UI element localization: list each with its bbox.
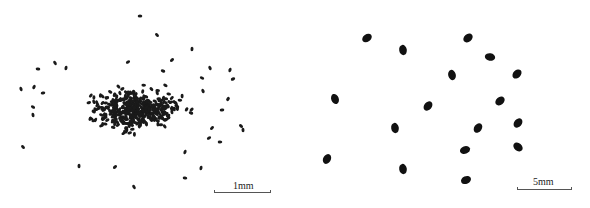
seed bbox=[494, 95, 507, 108]
seed bbox=[199, 165, 203, 170]
seed bbox=[20, 144, 25, 149]
seed bbox=[188, 111, 193, 115]
seed-cluster-image bbox=[0, 0, 295, 208]
seed bbox=[398, 163, 407, 175]
seed bbox=[116, 84, 121, 89]
seed bbox=[86, 101, 91, 105]
seed bbox=[398, 44, 407, 56]
seed bbox=[118, 90, 122, 95]
seed-panel-left: 1mm bbox=[0, 0, 295, 208]
seed bbox=[19, 86, 23, 91]
seed bbox=[422, 100, 435, 113]
scale-bar-5mm bbox=[517, 187, 572, 190]
seed bbox=[462, 32, 475, 45]
seed bbox=[199, 76, 204, 81]
seed bbox=[52, 60, 57, 65]
seed bbox=[512, 117, 525, 130]
seed bbox=[40, 91, 45, 95]
seed bbox=[36, 67, 41, 71]
seed bbox=[30, 105, 35, 110]
seed bbox=[130, 127, 135, 131]
seed bbox=[112, 164, 117, 169]
seed bbox=[209, 125, 214, 130]
seed bbox=[484, 52, 496, 61]
seed bbox=[220, 108, 225, 112]
seed bbox=[208, 65, 213, 70]
seed bbox=[241, 128, 244, 133]
seed bbox=[206, 136, 211, 141]
seed bbox=[218, 140, 223, 143]
seed bbox=[31, 112, 35, 117]
seed bbox=[32, 84, 37, 89]
seed bbox=[183, 149, 187, 154]
seed bbox=[169, 95, 174, 100]
seed bbox=[64, 65, 68, 70]
seed bbox=[181, 94, 184, 99]
seed bbox=[107, 89, 112, 94]
seed bbox=[184, 107, 189, 112]
seed-panel-right: 5mm bbox=[295, 0, 590, 208]
seed bbox=[149, 86, 154, 91]
seed bbox=[154, 32, 159, 37]
seed bbox=[511, 68, 524, 81]
seed bbox=[472, 122, 484, 135]
seed bbox=[160, 69, 165, 73]
seed bbox=[459, 145, 471, 156]
seed bbox=[133, 132, 136, 137]
seed bbox=[125, 60, 130, 65]
seed bbox=[201, 88, 206, 93]
seed bbox=[361, 32, 374, 44]
scale-bar-1mm bbox=[214, 190, 271, 193]
seed bbox=[228, 67, 232, 72]
seed bbox=[138, 15, 143, 18]
seed bbox=[77, 164, 80, 169]
seed bbox=[131, 184, 136, 189]
seed bbox=[92, 95, 95, 100]
seed bbox=[141, 84, 146, 87]
seed bbox=[390, 122, 399, 134]
seed bbox=[120, 86, 125, 91]
seed bbox=[189, 107, 194, 112]
seed bbox=[163, 83, 168, 88]
seed bbox=[169, 57, 174, 62]
seed bbox=[166, 92, 171, 96]
seed bbox=[141, 89, 145, 94]
seed bbox=[182, 176, 187, 180]
seed bbox=[512, 141, 525, 154]
seed bbox=[178, 99, 183, 102]
seed bbox=[127, 131, 132, 135]
seed bbox=[225, 96, 230, 101]
seed bbox=[447, 69, 457, 81]
seed bbox=[460, 174, 473, 185]
seed bbox=[321, 153, 333, 166]
seed bbox=[230, 77, 235, 82]
scale-bar-label-5mm: 5mm bbox=[533, 177, 554, 187]
seed bbox=[330, 93, 341, 105]
seed bbox=[190, 47, 193, 52]
